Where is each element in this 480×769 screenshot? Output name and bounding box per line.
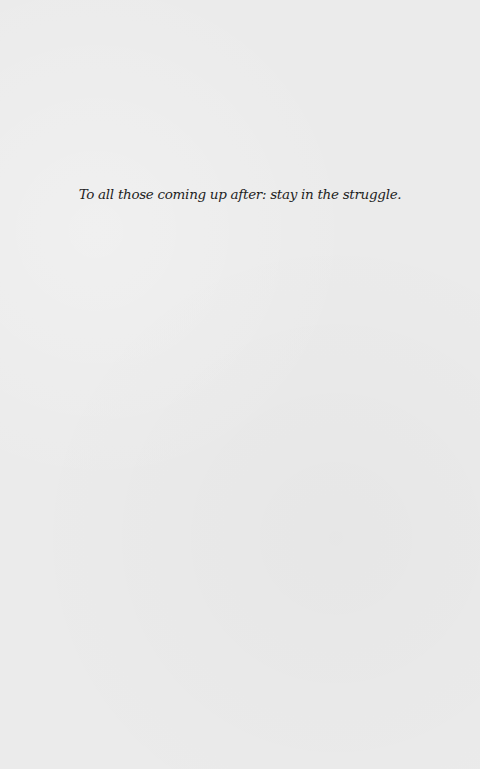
dedication-text: To all those coming up after: stay in th… bbox=[0, 186, 480, 202]
book-page: To all those coming up after: stay in th… bbox=[0, 0, 480, 769]
